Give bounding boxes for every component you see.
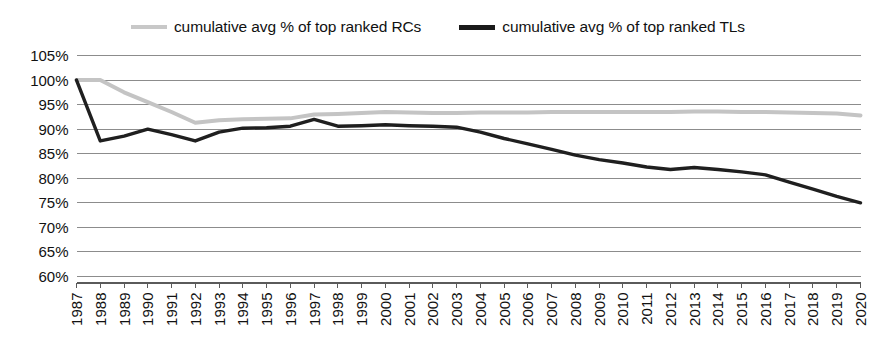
y-axis-tick-label: 60% bbox=[38, 268, 68, 285]
x-axis-tick-label: 2009 bbox=[591, 293, 608, 326]
x-axis-tick-label: 2020 bbox=[852, 293, 869, 326]
y-axis-tick-label: 100% bbox=[30, 72, 68, 89]
x-axis-tick-label: 2012 bbox=[662, 293, 679, 326]
gridlines-group bbox=[77, 56, 861, 277]
x-axis-tick-label: 2017 bbox=[781, 293, 798, 326]
y-axis-labels-group: 105%100%95%90%85%80%75%70%65%60% bbox=[30, 47, 68, 285]
x-axis-tick-label: 1988 bbox=[92, 293, 109, 326]
x-axis-tick-label: 2011 bbox=[638, 293, 655, 325]
x-axis-tick-label: 1994 bbox=[234, 293, 251, 326]
x-axis-tick-label: 2005 bbox=[496, 293, 513, 326]
x-axis-tick-label: 1992 bbox=[187, 293, 204, 326]
x-axis-tick-label: 1995 bbox=[258, 293, 275, 326]
chart-svg: 105%100%95%90%85%80%75%70%65%60% 1987198… bbox=[0, 0, 876, 356]
series-group bbox=[77, 80, 861, 203]
series-line-tl bbox=[77, 80, 861, 203]
x-axis-tick-label: 2018 bbox=[804, 293, 821, 326]
x-axis-tick-label: 2010 bbox=[614, 293, 631, 326]
x-axis-tick-label: 1987 bbox=[68, 293, 85, 326]
y-axis-tick-label: 85% bbox=[38, 145, 68, 162]
plot-area: 105%100%95%90%85%80%75%70%65%60% 1987198… bbox=[0, 0, 876, 356]
x-axis-tickmarks-group bbox=[77, 283, 861, 288]
series-line-rc bbox=[77, 80, 861, 123]
y-axis-tick-label: 90% bbox=[38, 121, 68, 138]
y-axis-tick-label: 70% bbox=[38, 219, 68, 236]
x-axis-tick-label: 1989 bbox=[116, 293, 133, 326]
chart-container: cumulative avg % of top ranked RCs cumul… bbox=[0, 0, 876, 356]
x-axis-tick-label: 2004 bbox=[472, 293, 489, 326]
x-axis-tick-label: 2019 bbox=[828, 293, 845, 326]
x-axis-tick-label: 1999 bbox=[353, 293, 370, 326]
x-axis-tick-label: 2003 bbox=[448, 293, 465, 326]
x-axis-tick-label: 2015 bbox=[733, 293, 750, 326]
x-axis-tick-label: 1993 bbox=[211, 293, 228, 326]
x-axis-tick-label: 1991 bbox=[163, 293, 180, 326]
y-axis-tick-label: 75% bbox=[38, 194, 68, 211]
x-axis-tick-label: 2001 bbox=[401, 293, 418, 326]
y-axis-tick-label: 80% bbox=[38, 170, 68, 187]
x-axis-tick-label: 2014 bbox=[709, 293, 726, 326]
x-axis-tick-label: 2000 bbox=[377, 293, 394, 326]
x-axis-labels-group: 1987198819891990199119921993199419951996… bbox=[68, 293, 869, 326]
x-axis-tick-label: 2006 bbox=[519, 293, 536, 326]
x-axis-tick-label: 1997 bbox=[306, 293, 323, 326]
x-axis-tick-label: 1996 bbox=[282, 293, 299, 326]
x-axis-tick-label: 2007 bbox=[543, 293, 560, 326]
x-axis-tick-label: 1998 bbox=[329, 293, 346, 326]
x-axis-tick-label: 2008 bbox=[567, 293, 584, 326]
y-axis-tick-label: 105% bbox=[30, 47, 68, 64]
x-axis-tick-label: 2002 bbox=[424, 293, 441, 326]
x-axis-tick-label: 2016 bbox=[757, 293, 774, 326]
y-axis-tick-label: 95% bbox=[38, 96, 68, 113]
x-axis-tick-label: 2013 bbox=[686, 293, 703, 326]
x-axis-tick-label: 1990 bbox=[139, 293, 156, 326]
y-axis-tick-label: 65% bbox=[38, 243, 68, 260]
